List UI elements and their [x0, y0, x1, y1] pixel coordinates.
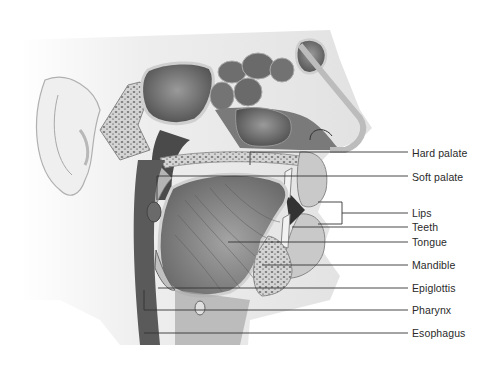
- sphenoid-sinus: [142, 63, 214, 124]
- label-hard-palate: Hard palate: [412, 147, 467, 159]
- label-mandible: Mandible: [412, 259, 455, 271]
- label-lips: Lips: [412, 207, 432, 219]
- nasal-concha: [236, 108, 292, 147]
- label-soft-palate: Soft palate: [412, 171, 463, 183]
- label-tongue: Tongue: [412, 236, 447, 248]
- label-pharynx: Pharynx: [412, 304, 451, 316]
- hyoid-bone: [195, 301, 205, 315]
- label-epiglottis: Epiglottis: [412, 282, 456, 294]
- anatomy-diagram: Hard palate Soft palate Lips Teeth Tongu…: [0, 0, 486, 369]
- label-teeth: Teeth: [412, 221, 438, 233]
- label-esophagus: Esophagus: [412, 327, 465, 339]
- tonsil: [147, 202, 161, 222]
